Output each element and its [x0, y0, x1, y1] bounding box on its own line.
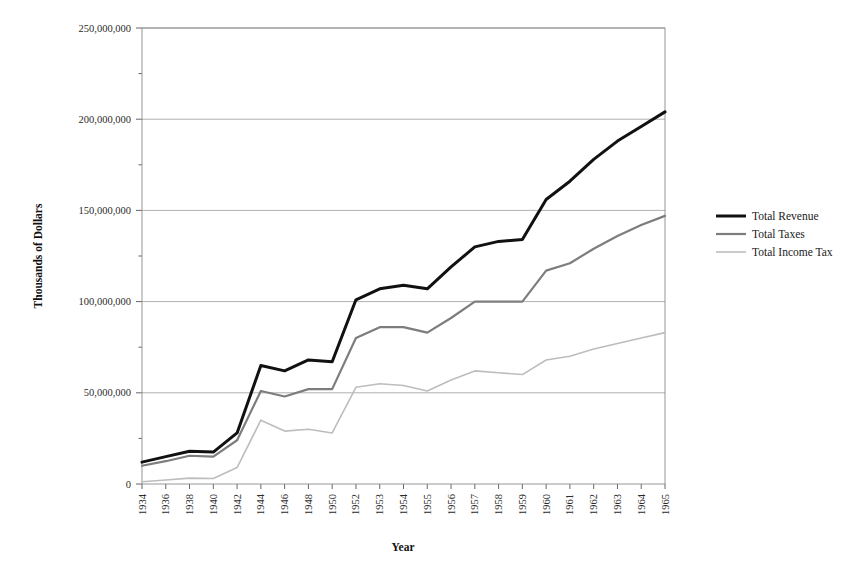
x-tick-label: 1952 [350, 494, 361, 515]
data-series [142, 112, 665, 482]
y-axis-ticks [136, 28, 142, 484]
x-tick-label: 1955 [422, 494, 433, 515]
series-line-total-revenue [142, 112, 665, 462]
y-axis-tick-labels: 050,000,000100,000,000150,000,000200,000… [79, 23, 132, 490]
y-tick-label: 200,000,000 [79, 114, 132, 125]
x-tick-label: 1959 [517, 494, 528, 515]
x-tick-label: 1950 [327, 494, 338, 515]
x-tick-label: 1956 [446, 494, 457, 515]
y-tick-label: 0 [126, 479, 131, 490]
x-tick-label: 1957 [469, 494, 480, 515]
legend-label-total-income-tax: Total Income Tax [752, 246, 833, 258]
x-tick-label: 1963 [612, 494, 623, 515]
y-tick-label: 100,000,000 [79, 296, 132, 307]
chart-legend: Total RevenueTotal TaxesTotal Income Tax [716, 210, 833, 258]
x-tick-label: 1934 [137, 493, 148, 515]
x-tick-label: 1962 [588, 494, 599, 515]
plot-frame [142, 28, 665, 484]
x-axis-tick-labels: 1934193619381940194219441946194819501952… [137, 493, 671, 515]
x-tick-label: 1944 [255, 493, 266, 515]
x-tick-label: 1960 [541, 494, 552, 515]
x-axis-title: Year [392, 541, 415, 553]
x-tick-label: 1936 [160, 494, 171, 515]
y-tick-label: 250,000,000 [79, 23, 132, 34]
chart-figure: 050,000,000100,000,000150,000,000200,000… [0, 0, 852, 571]
series-line-total-taxes [142, 216, 665, 466]
x-axis-ticks [142, 484, 665, 489]
y-axis-title: Thousands of Dollars [32, 203, 44, 308]
revenue-line-chart: 050,000,000100,000,000150,000,000200,000… [0, 0, 852, 571]
series-line-total-income-tax [142, 333, 665, 482]
x-tick-label: 1964 [636, 493, 647, 515]
x-tick-label: 1961 [564, 494, 575, 515]
x-tick-label: 1948 [303, 494, 314, 515]
x-tick-label: 1938 [184, 494, 195, 515]
x-tick-label: 1965 [660, 494, 671, 515]
x-tick-label: 1946 [279, 494, 290, 515]
x-tick-label: 1954 [398, 493, 409, 515]
x-tick-label: 1940 [208, 494, 219, 515]
x-tick-label: 1958 [493, 494, 504, 515]
x-tick-label: 1953 [374, 494, 385, 515]
y-tick-label: 150,000,000 [79, 205, 132, 216]
y-tick-label: 50,000,000 [84, 387, 131, 398]
x-tick-label: 1942 [232, 494, 243, 515]
legend-label-total-revenue: Total Revenue [752, 210, 819, 222]
gridlines [142, 28, 665, 393]
legend-label-total-taxes: Total Taxes [752, 228, 805, 240]
